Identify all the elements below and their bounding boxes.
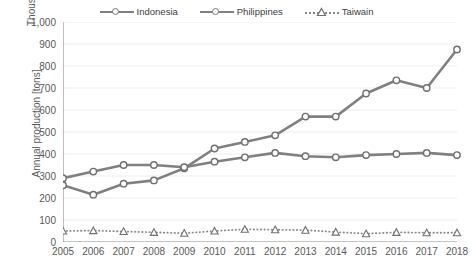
plot-svg xyxy=(63,22,463,242)
data-point[interactable] xyxy=(423,85,429,91)
y-axis-tick-label: 800 xyxy=(39,61,56,72)
triangle-icon xyxy=(316,7,327,17)
x-axis-tick-labels: 2005200620072008200920102011201220132014… xyxy=(63,246,463,266)
data-point[interactable] xyxy=(454,46,460,52)
x-axis-tick-label: 2006 xyxy=(82,246,104,257)
data-point[interactable] xyxy=(363,152,369,158)
chart-legend: Indonesia Philippines Taiwain xyxy=(0,6,473,17)
y-axis-tick-label: 700 xyxy=(39,83,56,94)
data-point[interactable] xyxy=(363,90,369,96)
data-point[interactable] xyxy=(90,192,96,198)
data-point[interactable] xyxy=(393,77,399,83)
legend-item-philippines[interactable]: Philippines xyxy=(200,6,283,17)
data-point[interactable] xyxy=(181,164,187,170)
data-point[interactable] xyxy=(423,150,429,156)
data-point[interactable] xyxy=(393,151,399,157)
y-axis-tick-labels: 01002003004005006007008009001,000 xyxy=(0,22,60,242)
y-axis-tick-label: 900 xyxy=(39,39,56,50)
data-point[interactable] xyxy=(242,154,248,160)
data-point[interactable] xyxy=(211,159,217,165)
y-axis-tick-label: 400 xyxy=(39,149,56,160)
x-axis-tick-label: 2010 xyxy=(203,246,225,257)
y-axis-tick-label: 600 xyxy=(39,105,56,116)
x-axis-tick-label: 2011 xyxy=(234,246,256,257)
x-axis-tick-label: 2015 xyxy=(355,246,377,257)
series-line-indonesia xyxy=(63,50,457,195)
data-point[interactable] xyxy=(302,153,308,159)
x-axis-tick-label: 2013 xyxy=(294,246,316,257)
plot-area xyxy=(63,22,463,242)
data-point[interactable] xyxy=(333,113,339,119)
data-point[interactable] xyxy=(272,132,278,138)
legend-label-philippines: Philippines xyxy=(237,6,283,17)
data-point[interactable] xyxy=(211,145,217,151)
x-axis-tick-label: 2005 xyxy=(52,246,74,257)
legend-item-taiwain[interactable]: Taiwain xyxy=(305,6,374,17)
legend-label-taiwain: Taiwain xyxy=(342,6,374,17)
data-point[interactable] xyxy=(120,162,126,168)
legend-marker-taiwain xyxy=(305,7,339,17)
data-point[interactable] xyxy=(272,150,278,156)
y-axis-tick-label: 300 xyxy=(39,171,56,182)
data-point[interactable] xyxy=(333,154,339,160)
x-axis-tick-label: 2016 xyxy=(385,246,407,257)
x-axis-tick-label: 2017 xyxy=(416,246,438,257)
legend-marker-philippines xyxy=(200,7,234,17)
x-axis-tick-label: 2014 xyxy=(325,246,347,257)
data-point[interactable] xyxy=(454,152,460,158)
y-axis-tick-label: 500 xyxy=(39,127,56,138)
legend-label-indonesia: Indonesia xyxy=(137,6,178,17)
data-point[interactable] xyxy=(63,175,66,181)
y-axis-tick-label: 1,000 xyxy=(31,17,56,28)
data-point[interactable] xyxy=(120,181,126,187)
data-point[interactable] xyxy=(151,177,157,183)
y-axis-tick-label: 100 xyxy=(39,215,56,226)
legend-marker-indonesia xyxy=(100,7,134,17)
data-point[interactable] xyxy=(242,139,248,145)
y-axis-tick-label: 200 xyxy=(39,193,56,204)
x-axis-tick-label: 2007 xyxy=(112,246,134,257)
x-axis-tick-label: 2012 xyxy=(264,246,286,257)
data-point[interactable] xyxy=(302,113,308,119)
data-point[interactable] xyxy=(63,182,66,188)
legend-item-indonesia[interactable]: Indonesia xyxy=(100,6,178,17)
data-point[interactable] xyxy=(90,168,96,174)
x-axis-tick-label: 2009 xyxy=(173,246,195,257)
x-axis-tick-label: 2008 xyxy=(143,246,165,257)
data-point[interactable] xyxy=(151,162,157,168)
x-axis-tick-label: 2018 xyxy=(446,246,468,257)
chart-container: Indonesia Philippines Taiwain Annual pro… xyxy=(0,0,473,271)
